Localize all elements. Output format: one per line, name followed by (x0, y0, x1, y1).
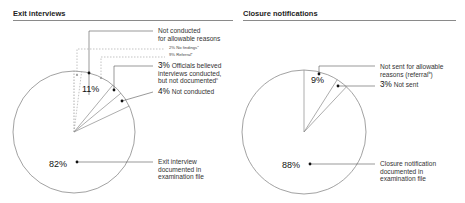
not-conducted-label: 4% Not conducted (158, 88, 214, 96)
closure-doc-line1: Closure notification (380, 160, 436, 168)
pct-9: 9% (311, 75, 324, 85)
pct-82: 82% (49, 159, 67, 169)
no-findings-text: 2% No findings (169, 45, 197, 50)
referral-text: 9% Referral (169, 52, 191, 57)
not-sent-pct: 3% (380, 80, 392, 89)
not-sent-text: Not sent (392, 81, 418, 88)
closure-doc-line2: documented in (380, 168, 436, 176)
officials-label: 3% Officials believed interviews conduct… (158, 62, 221, 85)
not-sent-label: 3% Not sent (380, 81, 418, 89)
not-sent-allow-line1: Not sent for allowable (380, 63, 443, 71)
officials-line1: Officials believed (170, 62, 222, 69)
closure-documented-label: Closure notification documented in exami… (380, 160, 436, 183)
exit-doc-line1: Exit interview (158, 158, 204, 166)
footnote-b: b (191, 52, 192, 55)
allowable-label: Not conducted for allowable reasons (158, 27, 220, 42)
pct-11: 11% (82, 84, 99, 94)
footnote-a: a (197, 45, 198, 48)
paren-close: ) (431, 71, 433, 78)
allowable-line2: for allowable reasons (158, 35, 220, 43)
closure-doc-line3: examination file (380, 175, 436, 183)
officials-pct: 3% (158, 61, 170, 70)
exit-doc-line2: documented in (158, 166, 204, 174)
exit-documented-label: Exit interview documented in examination… (158, 158, 204, 181)
not-conducted-pct: 4% (158, 87, 170, 96)
not-conducted-text: Not conducted (170, 88, 214, 95)
exit-doc-line3: examination file (158, 173, 204, 181)
officials-line3: but not documented (158, 77, 216, 84)
no-findings-label: 2% No findingsa (169, 45, 199, 50)
not-sent-allowable-label: Not sent for allowable reasons (referral… (380, 63, 443, 78)
allowable-line1: Not conducted (158, 27, 220, 35)
pct-88: 88% (282, 160, 300, 170)
not-sent-allow-line2: reasons (referral (380, 71, 428, 78)
referral-label: 9% Referralb (169, 52, 193, 57)
footnote-c: c (216, 76, 218, 81)
